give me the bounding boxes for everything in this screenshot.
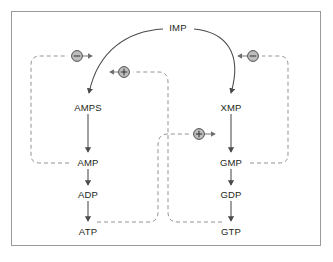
reaction-imp-to-amps — [89, 29, 163, 93]
node-label-adp: ADP — [78, 190, 98, 200]
node-label-atp: ATP — [79, 227, 97, 237]
badge-activate-amps — [119, 67, 130, 78]
pathway-svg — [0, 0, 333, 262]
diagram-canvas: IMP AMPS XMP AMP GMP ADP GDP ATP GTP — [0, 0, 333, 262]
node-label-gmp: GMP — [220, 158, 242, 168]
node-label-amps: AMPS — [74, 103, 102, 113]
node-label-xmp: XMP — [220, 103, 241, 113]
reaction-imp-to-xmp — [194, 29, 235, 93]
node-label-gtp: GTP — [221, 227, 241, 237]
regulation-gmp-inhibits-xmp — [250, 56, 288, 163]
regulation-gtp-activates-amps — [133, 72, 222, 222]
regulation-amp-inhibits-amps — [31, 56, 69, 163]
node-label-gdp: GDP — [220, 190, 241, 200]
node-label-imp: IMP — [169, 23, 187, 33]
node-label-amp: AMP — [77, 158, 98, 168]
badge-activate-xmp — [194, 129, 205, 140]
badge-inhibit-xmp — [248, 51, 259, 62]
regulation-atp-activates-xmp — [97, 134, 190, 222]
badge-inhibit-amps — [72, 51, 83, 62]
